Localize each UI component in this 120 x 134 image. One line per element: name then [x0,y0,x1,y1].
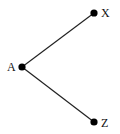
node-z [90,118,97,125]
node-x-label: X [101,6,110,20]
node-a [18,63,25,70]
edge-a-x [22,13,94,67]
node-a-label: A [7,60,16,74]
node-z-label: Z [101,116,108,130]
tree-diagram: A X Z [0,0,120,134]
node-x [90,9,97,16]
edge-a-z [22,67,94,122]
